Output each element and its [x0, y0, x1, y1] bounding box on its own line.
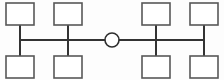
network-topology-diagram: [0, 0, 224, 80]
central-hub-circle-icon[interactable]: [105, 33, 119, 47]
node-box-bottom-left-1[interactable]: [6, 56, 34, 78]
node-box-bottom-right-1[interactable]: [142, 56, 170, 78]
node-box-top-right-1[interactable]: [142, 3, 170, 25]
node-box-top-left-2[interactable]: [54, 3, 82, 25]
diagram-canvas: [0, 0, 224, 80]
node-box-bottom-right-2[interactable]: [190, 56, 218, 78]
node-box-top-left-1[interactable]: [6, 3, 34, 25]
node-box-bottom-left-2[interactable]: [54, 56, 82, 78]
node-box-top-right-2[interactable]: [190, 3, 218, 25]
